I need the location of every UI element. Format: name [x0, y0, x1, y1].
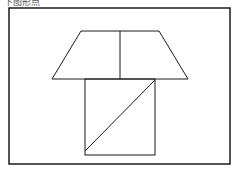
geometry-diagram — [0, 0, 234, 172]
square-diagonal-line — [85, 80, 155, 151]
